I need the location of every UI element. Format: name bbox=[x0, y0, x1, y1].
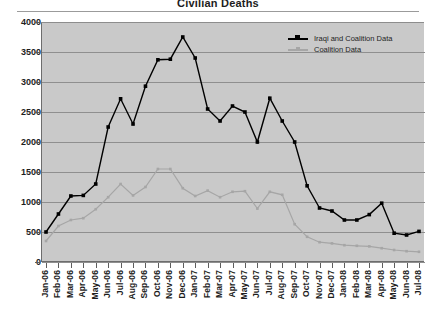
x-axis-tick-mark bbox=[295, 263, 296, 268]
series-data-point bbox=[356, 245, 359, 248]
x-axis-tick-mark bbox=[183, 263, 184, 268]
series-data-point bbox=[293, 223, 296, 226]
series-data-point bbox=[106, 125, 110, 129]
chart-page: Civilian Deaths 050010001500200025003000… bbox=[0, 0, 436, 318]
page-title: Civilian Deaths bbox=[0, 0, 436, 9]
x-axis-tick-mark bbox=[282, 263, 283, 268]
y-axis-tick-mark bbox=[35, 52, 40, 53]
x-axis-tick-label: Dec-07 bbox=[327, 270, 336, 298]
series-data-point bbox=[156, 58, 160, 62]
x-axis-tick-mark bbox=[357, 263, 358, 268]
series-data-point bbox=[330, 209, 334, 213]
series-data-point bbox=[418, 251, 421, 254]
legend-label: Coalition Data bbox=[314, 45, 361, 54]
series-data-point bbox=[281, 194, 284, 197]
series-data-point bbox=[181, 187, 184, 190]
series-data-point bbox=[94, 208, 97, 211]
x-axis-tick-label: Feb-07 bbox=[203, 270, 212, 298]
x-axis-tick-label: May-06 bbox=[91, 270, 100, 299]
x-axis-tick-label: Sep-07 bbox=[290, 270, 299, 298]
series-data-point bbox=[144, 186, 147, 189]
series-data-point bbox=[380, 201, 384, 205]
series-data-point bbox=[368, 245, 371, 248]
series-data-point bbox=[355, 218, 359, 222]
x-axis-tick-mark bbox=[407, 263, 408, 268]
x-axis-tick-label: Jul-06 bbox=[116, 270, 125, 295]
x-axis-tick-mark bbox=[83, 263, 84, 268]
x-axis-tick-label: Nov-07 bbox=[315, 270, 324, 299]
series-data-point bbox=[219, 196, 222, 199]
x-axis-tick-mark bbox=[133, 263, 134, 268]
x-axis-tick-label: Jan-07 bbox=[190, 270, 199, 298]
x-axis-tick-mark bbox=[220, 263, 221, 268]
x-axis-tick-label: Sep-06 bbox=[140, 270, 149, 298]
series-data-point bbox=[181, 35, 185, 39]
x-axis-tick-mark bbox=[369, 263, 370, 268]
series-data-point bbox=[305, 184, 309, 188]
y-axis: 05001000150020002500300035004000 bbox=[0, 22, 41, 263]
x-axis-tick-label: May-08 bbox=[389, 270, 398, 299]
x-axis-tick-mark bbox=[332, 263, 333, 268]
x-axis-tick-mark bbox=[245, 263, 246, 268]
x-axis-tick-mark bbox=[121, 263, 122, 268]
series-data-point bbox=[256, 207, 259, 210]
x-axis-tick-mark bbox=[195, 263, 196, 268]
x-axis-tick-label: Apr-06 bbox=[78, 270, 87, 298]
series-data-point bbox=[206, 189, 209, 192]
series-data-point bbox=[169, 57, 173, 61]
series-data-point bbox=[343, 218, 347, 222]
x-axis-tick-label: Mar-08 bbox=[364, 270, 373, 298]
series-data-point bbox=[169, 168, 172, 171]
legend-diamond-marker-icon bbox=[296, 47, 300, 51]
series-line bbox=[46, 37, 419, 235]
series-data-point bbox=[119, 97, 123, 101]
x-axis-tick-mark bbox=[307, 263, 308, 268]
y-axis-tick-mark bbox=[35, 232, 40, 233]
y-axis-tick-mark bbox=[35, 262, 40, 263]
x-axis-tick-label: May-07 bbox=[240, 270, 249, 299]
x-axis-tick-label: Oct-07 bbox=[302, 270, 311, 297]
legend-square-marker-icon bbox=[295, 35, 300, 40]
x-axis-tick-mark bbox=[394, 263, 395, 268]
x-axis-tick-mark bbox=[233, 263, 234, 268]
x-axis-tick-label: Aug-06 bbox=[128, 270, 137, 299]
series-data-point bbox=[132, 194, 135, 197]
series-data-point bbox=[269, 191, 272, 194]
y-axis-tick-mark bbox=[35, 112, 40, 113]
x-axis-tick-label: Dec-06 bbox=[178, 270, 187, 298]
chart-legend: Iraqi and Coalition Data Coalition Data bbox=[288, 33, 428, 57]
series-data-point bbox=[57, 212, 61, 216]
series-data-point bbox=[107, 196, 110, 199]
series-data-point bbox=[82, 194, 86, 198]
series-data-point bbox=[45, 240, 48, 243]
series-data-point bbox=[343, 244, 346, 247]
y-axis-tick-mark bbox=[35, 202, 40, 203]
series-data-point bbox=[318, 206, 322, 210]
legend-item-coalition: Coalition Data bbox=[288, 44, 428, 55]
x-axis-tick-label: Apr-08 bbox=[377, 270, 386, 298]
series-line bbox=[46, 169, 419, 252]
series-data-point bbox=[82, 217, 85, 220]
series-data-point bbox=[131, 122, 135, 126]
series-data-point bbox=[367, 213, 371, 217]
series-data-point bbox=[218, 119, 222, 123]
y-axis-tick-mark bbox=[35, 172, 40, 173]
series-data-point bbox=[293, 140, 297, 144]
series-data-point bbox=[268, 96, 272, 100]
series-data-point bbox=[244, 190, 247, 193]
series-data-point bbox=[69, 194, 73, 198]
x-axis-tick-mark bbox=[145, 263, 146, 268]
x-axis-tick-label: Jul-07 bbox=[265, 270, 274, 295]
x-axis-tick-label: Jun-07 bbox=[252, 270, 261, 298]
x-axis-tick-mark bbox=[344, 263, 345, 268]
x-axis-tick-label: Jan-06 bbox=[41, 270, 50, 298]
x-axis-tick-mark bbox=[71, 263, 72, 268]
series-data-point bbox=[57, 225, 60, 228]
series-data-point bbox=[392, 231, 396, 235]
chart-lines bbox=[41, 22, 424, 262]
title-divider bbox=[17, 11, 419, 12]
x-axis-tick-label: Jun-08 bbox=[402, 270, 411, 298]
series-data-point bbox=[194, 195, 197, 198]
x-axis-tick-mark bbox=[208, 263, 209, 268]
x-axis-tick-label: Jul-08 bbox=[414, 270, 423, 295]
